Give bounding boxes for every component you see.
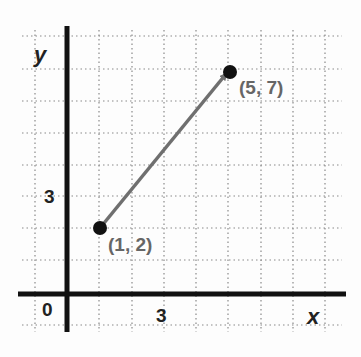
x-axis-label: x <box>306 304 320 329</box>
vector-arrow <box>100 74 226 228</box>
point-5-7 <box>223 65 237 79</box>
point-5-7-label: (5, 7) <box>239 77 283 98</box>
y-axis-label: y <box>33 42 48 67</box>
origin-label: 0 <box>42 299 53 320</box>
grid <box>22 30 342 332</box>
point-1-2-label: (1, 2) <box>108 234 152 255</box>
y-tick-3-label: 3 <box>44 186 55 207</box>
coordinate-plane: y x 0 3 3 (1, 2) (5, 7) <box>0 0 361 357</box>
point-1-2 <box>93 221 107 235</box>
x-tick-3-label: 3 <box>156 305 167 326</box>
